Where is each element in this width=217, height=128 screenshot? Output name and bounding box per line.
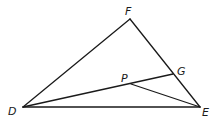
label-D: D (8, 105, 16, 118)
label-F: F (125, 5, 132, 18)
label-E: E (202, 106, 209, 119)
segment-PE (131, 84, 200, 107)
segment-FE (130, 19, 200, 107)
label-P: P (121, 72, 128, 85)
segment-DF (23, 19, 130, 107)
triangle-diagram: F D E G P (0, 0, 217, 128)
label-G: G (177, 65, 186, 78)
